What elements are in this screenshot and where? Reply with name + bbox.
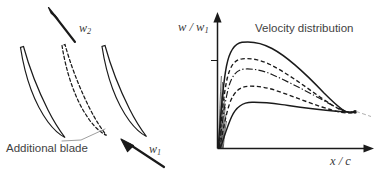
outlet-velocity-label-w2: w2 bbox=[79, 22, 91, 36]
additional-blade-leader-line bbox=[62, 129, 105, 141]
additional-blade-middle bbox=[62, 45, 107, 136]
y-axis-label-text: w / w bbox=[178, 20, 204, 34]
outlet-velocity-symbol: w bbox=[79, 21, 87, 35]
outlet-velocity-arrow-w2 bbox=[49, 8, 76, 43]
chart-curve-4 bbox=[220, 86, 355, 148]
additional-blade-caption: Additional blade bbox=[6, 143, 88, 155]
inlet-velocity-symbol: w bbox=[149, 142, 157, 156]
x-axis bbox=[218, 144, 375, 152]
main-blade-left bbox=[21, 47, 66, 138]
inlet-velocity-subscript: 1 bbox=[157, 148, 161, 157]
inlet-velocity-label-w1: w1 bbox=[149, 143, 161, 157]
chart-curve-5-lowest bbox=[220, 102, 354, 148]
figure-root: w2 w1 Additional blade Velocity distribu… bbox=[0, 0, 379, 176]
chart-curve-3-middle bbox=[219, 69, 355, 148]
chart-title: Velocity distribution bbox=[255, 23, 353, 35]
main-blade-right bbox=[102, 46, 147, 137]
y-axis-label-subscript: 1 bbox=[204, 25, 208, 35]
y-axis-label: w / w1 bbox=[178, 21, 209, 34]
chart-curve-1-highest bbox=[218, 42, 354, 148]
x-axis-label: x / c bbox=[330, 155, 351, 168]
trailing-edge-continuation-stub bbox=[356, 111, 371, 116]
outlet-velocity-subscript: 2 bbox=[87, 27, 91, 36]
